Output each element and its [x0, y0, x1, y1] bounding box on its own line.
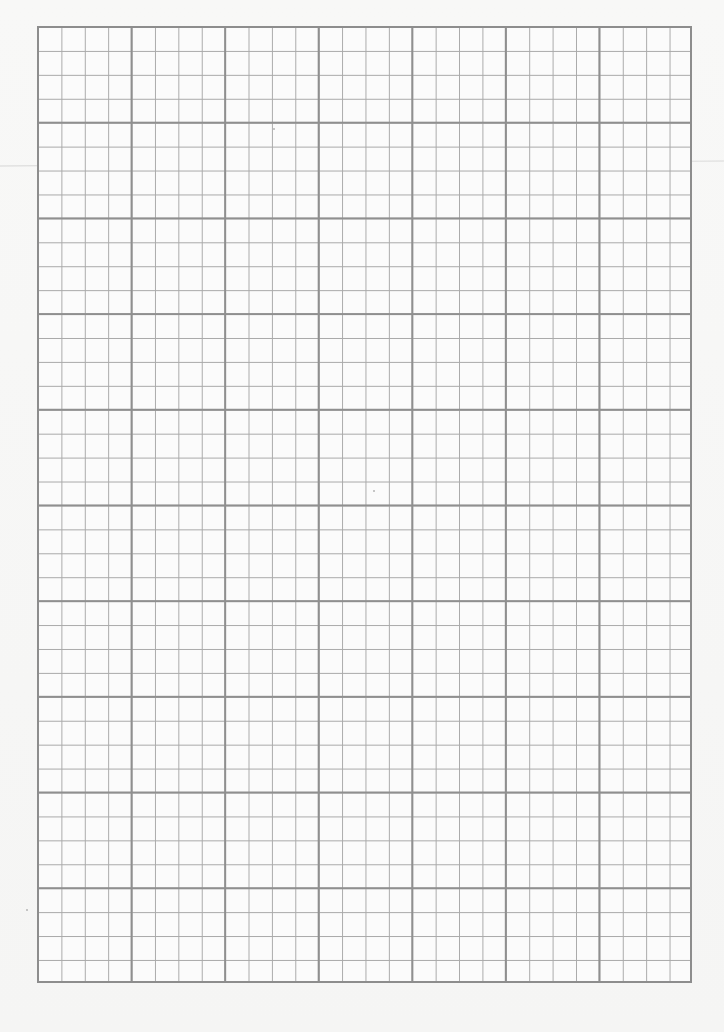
scan-speck — [273, 128, 275, 130]
graph-grid — [37, 26, 692, 983]
scan-speck — [26, 909, 28, 911]
paper-sheet — [0, 0, 724, 1032]
scan-speck — [373, 490, 375, 492]
